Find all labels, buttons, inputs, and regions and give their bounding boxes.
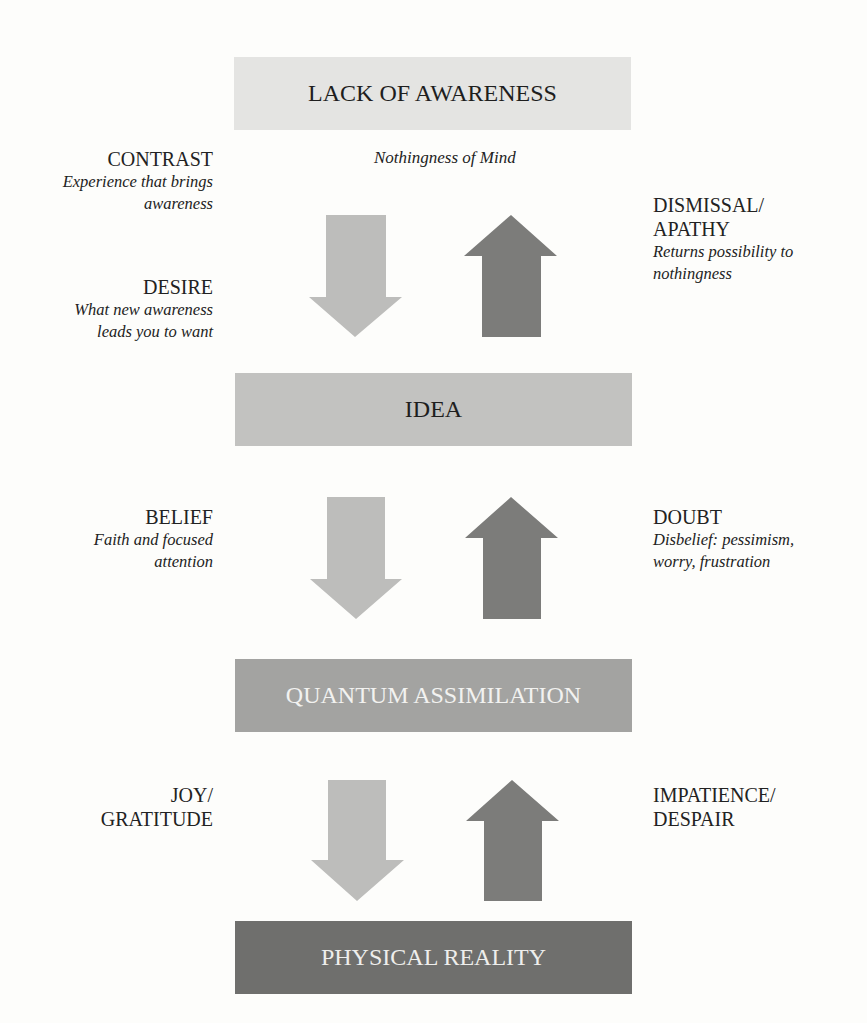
label-desc: leads you to want xyxy=(0,321,213,343)
down-arrow-icon xyxy=(309,215,402,337)
label-contrast: CONTRAST Experience that brings awarenes… xyxy=(0,147,213,215)
label-desire: DESIRE What new awareness leads you to w… xyxy=(0,275,213,343)
label-dismissal-apathy: DISMISSAL/ APATHY Returns possibility to… xyxy=(653,193,853,285)
label-title: IMPATIENCE/ xyxy=(653,783,853,807)
label-joy-gratitude: JOY/ GRATITUDE xyxy=(0,783,213,831)
label-desc: Experience that brings xyxy=(0,171,213,193)
label-title: BELIEF xyxy=(0,505,213,529)
label-desc: Returns possibility to xyxy=(653,241,853,263)
label-desc: nothingness xyxy=(653,263,853,285)
label-title: DISMISSAL/ xyxy=(653,193,853,217)
label-title: DOUBT xyxy=(653,505,853,529)
up-arrow-icon xyxy=(465,497,558,619)
label-desc: Faith and focused xyxy=(0,529,213,551)
down-arrow-icon xyxy=(310,497,402,619)
label-title: DESIRE xyxy=(0,275,213,299)
label-title: CONTRAST xyxy=(0,147,213,171)
label-desc: What new awareness xyxy=(0,299,213,321)
up-arrow-icon xyxy=(464,215,557,337)
label-title: DESPAIR xyxy=(653,807,853,831)
label-desc: attention xyxy=(0,551,213,573)
label-impatience-despair: IMPATIENCE/ DESPAIR xyxy=(653,783,853,831)
label-doubt: DOUBT Disbelief: pessimism, worry, frust… xyxy=(653,505,853,573)
label-desc: awareness xyxy=(0,193,213,215)
down-arrow-icon xyxy=(311,780,404,901)
label-title: JOY/ xyxy=(0,783,213,807)
label-desc: worry, frustration xyxy=(653,551,853,573)
label-belief: BELIEF Faith and focused attention xyxy=(0,505,213,573)
label-desc: Disbelief: pessimism, xyxy=(653,529,853,551)
label-title: APATHY xyxy=(653,217,853,241)
label-title: GRATITUDE xyxy=(0,807,213,831)
up-arrow-icon xyxy=(466,780,559,901)
